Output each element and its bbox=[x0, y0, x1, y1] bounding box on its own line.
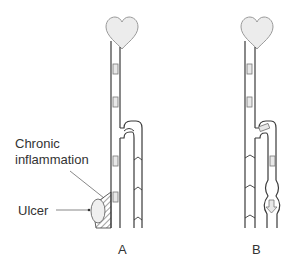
panel-b bbox=[241, 17, 280, 228]
venous-diagram: Chronic inflammation Ulcer A B bbox=[0, 0, 295, 267]
ulcer-label: Ulcer bbox=[18, 203, 48, 218]
diagram-canvas bbox=[0, 0, 295, 267]
reflux-arrow-icon bbox=[266, 200, 277, 213]
panel-a bbox=[56, 17, 142, 228]
inflammation-label: inflammation bbox=[15, 152, 89, 167]
panel-a-label: A bbox=[118, 242, 127, 257]
chronic-label: Chronic bbox=[15, 136, 60, 151]
flow-arrow-icon bbox=[113, 64, 118, 202]
ulcer-icon bbox=[91, 199, 105, 223]
heart-icon bbox=[241, 17, 273, 49]
panel-b-label: B bbox=[252, 242, 261, 257]
